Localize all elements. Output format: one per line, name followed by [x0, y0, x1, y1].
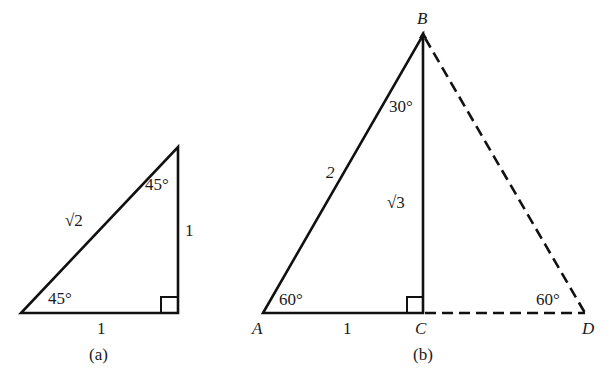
angle-a-label: 60° — [279, 291, 303, 308]
vertical-leg-label-a: 1 — [185, 222, 194, 239]
triangle-a — [21, 147, 178, 313]
angle-top-label-a: 45° — [145, 176, 169, 193]
vertex-b-tip — [419, 31, 427, 38]
angle-bottom-label-a: 45° — [48, 290, 72, 307]
triangle-drawing — [0, 0, 611, 383]
vertex-c-label: C — [415, 320, 426, 337]
side-ac-label: 1 — [343, 320, 352, 337]
caption-b: (b) — [413, 346, 433, 363]
caption-a: (a) — [89, 346, 108, 363]
diagram-canvas: √2 45° 1 45° 1 (a) B 30° 2 √3 60° 60° A … — [0, 0, 611, 383]
angle-b-label: 30° — [389, 98, 413, 115]
side-bc-label: √3 — [387, 194, 405, 211]
dashed-side-bd — [425, 38, 585, 313]
triangle-abc — [263, 35, 423, 313]
vertex-b-label: B — [417, 10, 427, 27]
angle-d-label: 60° — [536, 291, 560, 308]
vertex-d-label: D — [582, 320, 594, 337]
hypotenuse-label-a: √2 — [65, 212, 83, 229]
vertex-a-label: A — [252, 320, 262, 337]
horizontal-leg-label-a: 1 — [97, 320, 106, 337]
side-ab-label: 2 — [326, 164, 335, 181]
right-angle-marker-a — [161, 297, 178, 313]
right-angle-marker-c — [407, 297, 423, 313]
